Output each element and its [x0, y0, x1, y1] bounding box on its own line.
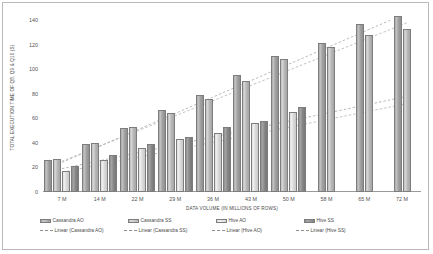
legend-dashed-line-icon [212, 230, 225, 231]
x-tick-label: 65 M [358, 196, 370, 202]
bar [233, 75, 241, 192]
y-tick-label: 120 [16, 42, 38, 48]
bar [298, 107, 306, 192]
bar [196, 95, 204, 192]
legend-dashed-line-icon [40, 230, 53, 231]
bar [53, 159, 61, 192]
legend-swatch-icon [40, 219, 51, 223]
x-tick-label: 72 M [396, 196, 408, 202]
bar [44, 160, 52, 192]
bar [356, 24, 364, 192]
bar [327, 47, 335, 192]
x-tick-label: 43 M [245, 196, 257, 202]
legend-label: Cassandra SS [141, 218, 172, 223]
bar [365, 35, 373, 192]
legend-label: Linear (Cassandra AO) [55, 228, 104, 233]
legend-item-trendline-3[interactable]: Linear (Hive SS) [296, 228, 346, 233]
bar [205, 99, 213, 192]
legend-dashed-line-icon [124, 230, 137, 231]
bar-group [119, 20, 157, 192]
legend-item-trendline-2[interactable]: Linear (Hive AO) [212, 228, 262, 233]
bar-group [383, 20, 421, 192]
bar [109, 155, 117, 192]
legend-swatch-icon [304, 219, 315, 223]
legend-dashed-line-icon [296, 230, 309, 231]
bar [129, 127, 137, 192]
bar [176, 139, 184, 192]
bar [242, 81, 250, 192]
legend-item-s2[interactable]: Hive AO [216, 218, 246, 223]
legend-label: Hive SS [317, 218, 334, 223]
y-tick-label: 0 [16, 189, 38, 195]
x-tick-label: 36 M [207, 196, 219, 202]
bar-group [43, 20, 81, 192]
chart-container: TOTAL EXECUTION TIME OF Q8, Q9 & Q10 (S)… [0, 0, 433, 254]
y-axis-tick-labels: 020406080100120140 [12, 0, 38, 254]
legend-row-series: Cassandra AOCassandra SSHive AOHive SS [40, 218, 396, 228]
y-tick-label: 40 [16, 140, 38, 146]
bar [138, 148, 146, 192]
bar-group [156, 20, 194, 192]
bar [403, 29, 411, 192]
legend-row-trendlines: Linear (Cassandra AO)Linear (Cassandra S… [40, 228, 396, 238]
bar [62, 171, 70, 192]
bar [251, 123, 259, 192]
x-tick-label: 14 M [94, 196, 106, 202]
bar [71, 166, 79, 192]
x-tick-label: 7 M [57, 196, 66, 202]
bar [223, 127, 231, 192]
y-tick-label: 60 [16, 115, 38, 121]
bar [185, 137, 193, 192]
y-tick-label: 20 [16, 164, 38, 170]
x-tick-label: 58 M [321, 196, 333, 202]
legend-label: Linear (Hive AO) [227, 228, 262, 233]
legend-item-s3[interactable]: Hive SS [304, 218, 334, 223]
legend-item-trendline-1[interactable]: Linear (Cassandra SS) [124, 228, 187, 233]
legend-label: Linear (Cassandra SS) [139, 228, 188, 233]
legend-item-s1[interactable]: Cassandra SS [128, 218, 171, 223]
bar-group [232, 20, 270, 192]
bar-group [308, 20, 346, 192]
legend-swatch-icon [128, 219, 139, 223]
legend-label: Cassandra AO [53, 218, 84, 223]
bar [280, 59, 288, 192]
legend-item-s0[interactable]: Cassandra AO [40, 218, 84, 223]
legend-item-trendline-0[interactable]: Linear (Cassandra AO) [40, 228, 104, 233]
bar [82, 144, 90, 192]
legend-label: Hive AO [229, 218, 247, 223]
bar-group [345, 20, 383, 192]
bar [100, 160, 108, 192]
bar-group [81, 20, 119, 192]
y-tick-label: 100 [16, 66, 38, 72]
bar [289, 112, 297, 192]
bar [260, 121, 268, 192]
bar [394, 16, 402, 192]
bar [158, 110, 166, 192]
bar [91, 143, 99, 192]
x-tick-label: 50 M [283, 196, 295, 202]
bar [167, 113, 175, 192]
bar [318, 43, 326, 192]
legend-swatch-icon [216, 219, 227, 223]
bar [214, 133, 222, 192]
x-tick-label: 22 M [132, 196, 144, 202]
y-tick-label: 140 [16, 17, 38, 23]
bar-group [194, 20, 232, 192]
bar [120, 128, 128, 192]
x-tick-label: 29 M [169, 196, 181, 202]
bar [271, 56, 279, 192]
x-axis-title: DATA VOLUME (IN MILLIONS OF ROWS) [43, 206, 421, 211]
chart-legend: Cassandra AOCassandra SSHive AOHive SS L… [40, 218, 396, 242]
y-tick-label: 80 [16, 91, 38, 97]
legend-label: Linear (Hive SS) [311, 228, 346, 233]
plot-area [43, 20, 421, 192]
bar [147, 144, 155, 192]
bar-group [270, 20, 308, 192]
